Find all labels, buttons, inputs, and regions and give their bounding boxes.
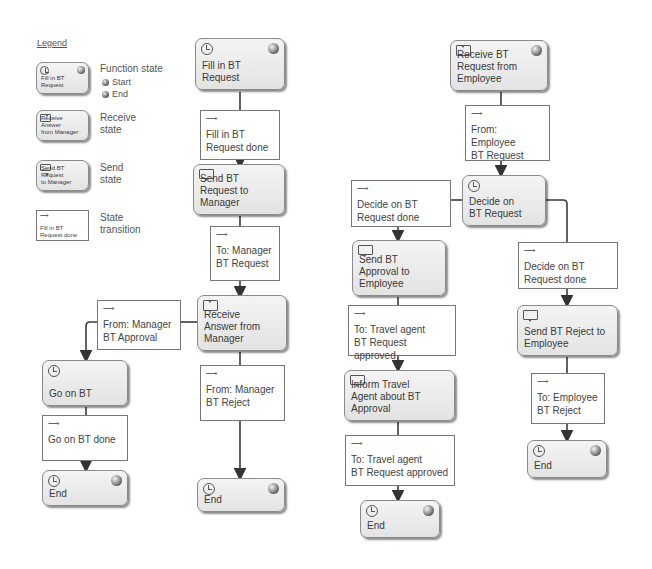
clock-icon — [201, 43, 213, 55]
state-label: Send BT Approval to Employee — [359, 254, 435, 290]
transition-arrow-icon: ⟶ — [354, 309, 450, 319]
legend-function-sample-label: Fill in BT Request — [41, 75, 84, 89]
transition-label: Go on BT done — [48, 433, 122, 446]
state-end-approval[interactable]: End — [360, 500, 440, 538]
transition-arrow-icon: ⟶ — [471, 109, 544, 119]
legend-function-state-label: Function state — [100, 63, 163, 75]
start-ball-icon — [102, 79, 109, 86]
end-ball-icon — [268, 483, 279, 494]
legend-send-state-label: Send state — [100, 162, 123, 186]
transition-go-on-done[interactable]: ⟶ Go on BT done — [42, 415, 128, 461]
transition-arrow-icon: ⟶ — [103, 304, 175, 314]
state-label: Go on BT — [49, 388, 123, 400]
state-label: End — [204, 494, 280, 506]
transition-label: Decide on BT Request done — [357, 198, 445, 224]
end-ball-icon — [111, 475, 122, 486]
state-send-bt-request[interactable]: Send BT Request to Manager — [193, 164, 285, 215]
clock-icon — [48, 365, 60, 377]
transition-arrow-icon: ⟶ — [357, 184, 445, 194]
transition-arrow-icon: ⟶ — [537, 377, 599, 387]
legend-receive-sample-label: Receive Answer from Manager — [41, 115, 84, 136]
end-ball-icon — [423, 505, 434, 516]
state-inform-travel-agent[interactable]: Inform Travel Agent about BT Approval — [344, 370, 455, 421]
transition-label: Fill in BT Request done — [206, 128, 274, 154]
transition-label: Decide on BT Request done — [524, 260, 612, 286]
transition-arrow-icon: ⟶ — [206, 114, 274, 124]
clock-icon — [366, 505, 378, 517]
state-go-on-bt[interactable]: Go on BT — [42, 360, 128, 406]
start-ball-icon — [268, 43, 279, 54]
legend-end: End — [102, 89, 128, 100]
clock-icon — [533, 445, 545, 457]
transition-arrow-icon: ⟶ — [206, 369, 279, 379]
state-label: Send BT Request to Manager — [200, 173, 270, 209]
transition-label: To: Manager BT Request — [216, 244, 274, 270]
transition-from-employee[interactable]: ⟶ From: Employee BT Request — [465, 105, 550, 161]
legend-start: Start — [102, 77, 131, 88]
transition-to-employee-reject[interactable]: ⟶ To: Employee BT Reject — [531, 373, 605, 424]
state-end-approved[interactable]: End — [42, 470, 128, 506]
state-end-reject[interactable]: End — [527, 440, 607, 478]
state-label: Decide on BT Request — [469, 196, 529, 220]
state-receive-bt-request[interactable]: Receive BT Request from Employee — [450, 40, 548, 91]
transition-label: From: Manager BT Approval — [103, 318, 175, 344]
state-label: End — [534, 460, 602, 472]
legend-receive-state-sample: Receive Answer from Manager — [36, 110, 89, 141]
state-label: Receive BT Request from Employee — [457, 49, 529, 85]
clock-icon — [468, 180, 480, 192]
send-icon — [523, 310, 538, 320]
transition-decide-done-approve[interactable]: ⟶ Decide on BT Request done — [351, 180, 451, 227]
state-fill-in-bt-request[interactable]: Fill in BT Request — [195, 38, 285, 90]
legend-end-label: End — [112, 89, 128, 99]
state-label: Inform Travel Agent about BT Approval — [351, 379, 436, 415]
transition-label: To: Travel agent BT Request approved — [354, 323, 450, 362]
legend-state-transition-sample: ⟶ Fill in BT Request done — [36, 210, 89, 241]
clock-icon — [40, 66, 49, 75]
state-end-rejected[interactable]: End — [197, 478, 285, 512]
transition-from-manager-approval[interactable]: ⟶ From: Manager BT Approval — [97, 300, 181, 350]
transition-arrow-icon: ⟶ — [216, 230, 274, 240]
state-label: Receive Answer from Manager — [204, 309, 274, 345]
transition-from-manager-reject[interactable]: ⟶ From: Manager BT Reject — [200, 365, 285, 421]
transition-to-travel-agent-2[interactable]: ⟶ To: Travel agent BT Request approved — [345, 435, 455, 486]
state-decide-on-bt-request[interactable]: Decide on BT Request — [462, 175, 546, 226]
transition-to-manager[interactable]: ⟶ To: Manager BT Request — [210, 226, 280, 281]
end-ball-icon — [590, 445, 601, 456]
transition-label: From: Manager BT Reject — [206, 383, 279, 409]
state-label: Fill in BT Request — [202, 60, 254, 84]
legend-title: Legend — [37, 38, 67, 48]
transition-arrow-icon: ⟶ — [48, 419, 122, 429]
legend-start-label: Start — [112, 77, 131, 87]
legend-state-transition-label: State transition — [100, 212, 141, 236]
transition-arrow-icon: ⟶ — [351, 439, 449, 449]
legend-function-state-sample: Fill in BT Request — [36, 62, 89, 94]
end-ball-icon — [102, 91, 109, 98]
start-end-ball-icon — [77, 66, 85, 74]
transition-to-travel-agent-1[interactable]: ⟶ To: Travel agent BT Request approved — [348, 305, 456, 356]
clock-icon — [48, 475, 60, 487]
state-label: End — [367, 520, 435, 532]
state-receive-answer[interactable]: Receive Answer from Manager — [197, 295, 287, 351]
state-send-bt-reject[interactable]: Send BT Reject to Employee — [517, 305, 618, 356]
start-ball-icon — [531, 45, 542, 56]
transition-label: To: Employee BT Reject — [537, 391, 599, 417]
legend-receive-state-label: Receive state — [100, 112, 136, 136]
state-label: End — [49, 488, 123, 500]
transition-decide-done-reject[interactable]: ⟶ Decide on BT Request done — [518, 242, 618, 289]
transition-label: From: Employee BT Request — [471, 123, 544, 162]
legend-send-state-sample: Send BT Request to Manager — [36, 160, 89, 191]
transition-arrow-icon: ⟶ — [40, 213, 85, 220]
transition-fill-in-done[interactable]: ⟶ Fill in BT Request done — [200, 110, 280, 160]
legend-send-sample-label: Send BT Request to Manager — [41, 165, 84, 186]
transition-label: To: Travel agent BT Request approved — [351, 453, 449, 479]
legend-transition-sample-label: Fill in BT Request done — [40, 225, 85, 239]
state-send-bt-approval[interactable]: Send BT Approval to Employee — [352, 240, 446, 296]
process-diagram: Legend Fill in BT Request Function state… — [0, 0, 652, 569]
state-label: Send BT Reject to Employee — [524, 326, 605, 350]
transition-arrow-icon: ⟶ — [524, 246, 612, 256]
